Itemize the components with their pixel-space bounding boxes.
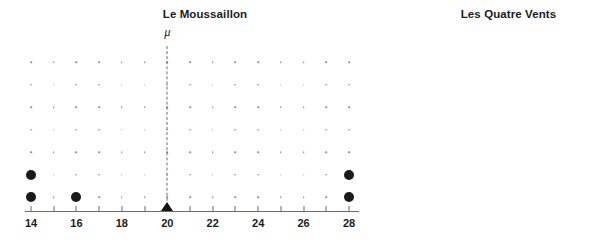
- grid-dot: [257, 106, 259, 108]
- grid-dot: [144, 151, 146, 153]
- x-axis-tick-label: 26: [297, 218, 309, 229]
- grid-dot: [121, 151, 123, 153]
- x-axis-tick-label: 18: [116, 218, 128, 229]
- grid-dot: [280, 84, 282, 86]
- x-axis-tick: [349, 206, 350, 211]
- grid-dot: [98, 106, 100, 108]
- grid-dot: [53, 174, 55, 176]
- grid-dot: [98, 61, 100, 63]
- grid-dot: [280, 61, 282, 63]
- x-axis-tick-label: 24: [252, 218, 264, 229]
- x-axis-tick-label: 22: [207, 218, 219, 229]
- x-axis-tick-label: 16: [70, 218, 82, 229]
- grid-dot: [98, 129, 100, 131]
- grid-dot: [257, 196, 259, 198]
- grid-dot: [53, 196, 55, 198]
- grid-dot: [189, 129, 191, 131]
- mu-label: μ: [164, 26, 170, 39]
- grid-dot: [30, 106, 32, 108]
- grid-dot: [212, 196, 214, 198]
- x-axis-tick: [76, 206, 77, 211]
- grid-dot: [76, 151, 78, 153]
- grid-dot: [235, 196, 237, 198]
- grid-dot: [76, 61, 78, 63]
- x-axis-tick: [326, 206, 327, 211]
- x-axis-tick: [121, 206, 122, 211]
- x-axis-tick: [303, 206, 304, 211]
- grid-dot: [235, 129, 237, 131]
- grid-dot: [144, 174, 146, 176]
- grid-dot: [121, 196, 123, 198]
- grid-dot: [257, 61, 259, 63]
- grid-dot: [325, 106, 327, 108]
- grid-dot: [235, 61, 237, 63]
- grid-dot: [189, 174, 191, 176]
- grid-dot: [98, 84, 100, 86]
- grid-dot: [348, 151, 350, 153]
- x-axis-tick: [144, 206, 145, 211]
- grid-dot: [98, 174, 100, 176]
- grid-dot: [257, 84, 259, 86]
- grid-dot: [144, 129, 146, 131]
- grid-dot: [212, 84, 214, 86]
- grid-dot: [144, 84, 146, 86]
- grid-dot: [53, 61, 55, 63]
- grid-dot: [98, 196, 100, 198]
- grid-dot: [121, 106, 123, 108]
- grid-dot: [325, 84, 327, 86]
- grid-dot: [235, 106, 237, 108]
- x-axis-tick: [190, 206, 191, 211]
- grid-dot: [121, 61, 123, 63]
- grid-dot: [348, 84, 350, 86]
- grid-dot: [280, 129, 282, 131]
- grid-dot: [235, 174, 237, 176]
- grid-dot: [30, 61, 32, 63]
- grid-dot: [30, 84, 32, 86]
- grid-dot: [212, 174, 214, 176]
- grid-dot: [280, 151, 282, 153]
- grid-dot: [98, 151, 100, 153]
- grid-dot: [76, 174, 78, 176]
- grid-dot: [189, 196, 191, 198]
- grid-dot: [303, 129, 305, 131]
- grid-dot: [348, 106, 350, 108]
- grid-dot: [325, 174, 327, 176]
- x-axis-tick: [258, 206, 259, 211]
- grid-dot: [303, 196, 305, 198]
- x-axis-tick: [280, 206, 281, 211]
- grid-dot: [348, 61, 350, 63]
- grid-dot: [76, 129, 78, 131]
- panel-les-quatre-vents: Les Quatre Vents 222426μ: [410, 0, 607, 252]
- grid-dot: [280, 196, 282, 198]
- grid-dot: [189, 61, 191, 63]
- grid-dot: [325, 61, 327, 63]
- data-point-dot: [26, 170, 36, 180]
- grid-dot: [53, 151, 55, 153]
- grid-dot: [212, 61, 214, 63]
- grid-dot: [144, 196, 146, 198]
- data-point-dot: [344, 192, 354, 202]
- x-axis-tick-label: 28: [343, 218, 355, 229]
- grid-dot: [212, 106, 214, 108]
- dotplot-figure: Le Moussaillon 1416182022242628μ Les Qua…: [0, 0, 607, 252]
- grid-dot: [189, 84, 191, 86]
- grid-dot: [76, 106, 78, 108]
- plot-area: 222426μ: [410, 0, 607, 252]
- grid-dot: [303, 106, 305, 108]
- grid-dot: [348, 129, 350, 131]
- data-point-dot: [26, 192, 36, 202]
- grid-dot: [212, 129, 214, 131]
- grid-dot: [257, 151, 259, 153]
- data-point-dot: [71, 192, 81, 202]
- grid-dot: [235, 84, 237, 86]
- mean-dashed-line: [167, 46, 168, 211]
- x-axis-tick: [31, 206, 32, 211]
- x-axis-tick: [99, 206, 100, 211]
- grid-dot: [121, 84, 123, 86]
- grid-dot: [53, 129, 55, 131]
- grid-dot: [325, 196, 327, 198]
- grid-dot: [53, 106, 55, 108]
- x-axis-tick: [212, 206, 213, 211]
- grid-dot: [30, 151, 32, 153]
- grid-dot: [121, 129, 123, 131]
